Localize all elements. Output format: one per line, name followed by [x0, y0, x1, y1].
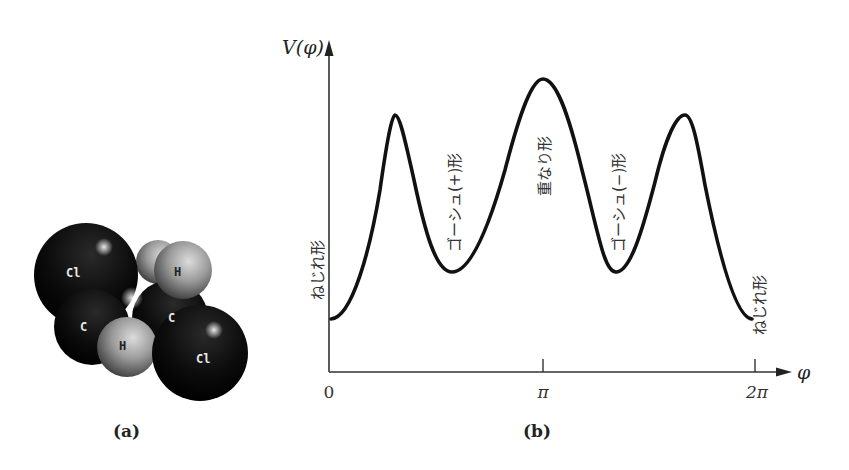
- figure: Cl H C C H Cl V(φ) φ 0 π 2π: [0, 0, 849, 470]
- annotation-staggered-left: ねじれ形: [309, 240, 327, 300]
- x-tick-label-pi: π: [536, 382, 549, 402]
- annotation-staggered-right: ねじれ形: [751, 275, 769, 335]
- x-axis-label: φ: [797, 361, 811, 383]
- atom-label-cl: Cl: [66, 266, 80, 280]
- potential-plot: V(φ) φ 0 π 2π ねじれ形 ゴーシュ(+)形 重なり形 ゴーシュ(−)…: [282, 36, 811, 402]
- annotation-gauche-plus: ゴーシュ(+)形: [446, 153, 464, 252]
- atom-h-1: [154, 241, 212, 299]
- atom-label-h: H: [174, 265, 181, 279]
- annotation-eclipsed: 重なり形: [536, 136, 554, 196]
- annotation-gauche-minus: ゴーシュ(−)形: [610, 153, 628, 252]
- atom-h-2: [97, 317, 157, 377]
- molecule-model: Cl H C C H Cl: [34, 223, 248, 401]
- specular-highlight: [95, 238, 113, 256]
- specular-highlight: [121, 287, 143, 309]
- atom-label-c: C: [80, 320, 87, 334]
- atom-label-c: C: [168, 311, 175, 325]
- y-axis-label: V(φ): [282, 36, 324, 58]
- panel-label-a: (a): [113, 421, 140, 441]
- x-tick-label-2pi: 2π: [745, 382, 769, 402]
- x-tick-label-0: 0: [324, 382, 335, 402]
- x-axis-arrow-icon: [776, 368, 792, 377]
- atom-label-cl: Cl: [196, 352, 210, 366]
- specular-highlight: [205, 321, 223, 339]
- y-axis-arrow-icon: [325, 40, 334, 56]
- panel-label-b: (b): [523, 421, 551, 441]
- potential-curve: [331, 79, 752, 319]
- atom-label-h: H: [119, 339, 126, 353]
